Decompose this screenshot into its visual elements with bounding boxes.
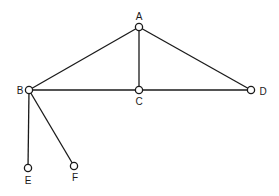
node-label-d: D [259,86,266,97]
node-a [135,23,142,30]
edge-a-b [29,27,139,90]
node-c [135,86,142,93]
node-label-f: F [72,172,78,183]
edge-a-d [139,27,251,90]
node-label-e: E [25,175,32,186]
node-d [247,86,254,93]
node-e [24,164,31,171]
node-label-b: B [17,85,24,96]
edge-b-f [29,90,74,166]
node-b [25,86,32,93]
node-label-c: C [135,96,142,107]
node-f [70,162,77,169]
edge-b-e [28,90,29,168]
graph-diagram: ABCDEF [0,0,279,196]
node-label-a: A [136,11,143,22]
labels-group: ABCDEF [17,11,267,186]
